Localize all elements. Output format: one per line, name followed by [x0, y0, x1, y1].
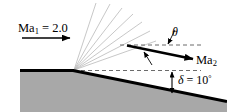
deflection-angle-value: = 10 [184, 73, 209, 87]
fan-line [74, 8, 122, 70]
fan-line [74, 31, 150, 70]
downstream-mach-subscript: 2 [213, 58, 217, 68]
downstream-flow-arrow [127, 46, 193, 60]
expansion-fan-figure: Ma1 = 2.0 Ma2 θ δ = 10° [0, 0, 227, 112]
downstream-mach-text: Ma [196, 53, 213, 67]
expansion-fan [74, 3, 156, 70]
downstream-mach-label: Ma2 [196, 54, 217, 67]
turn-angle-label: θ [172, 26, 178, 38]
upstream-mach-label: Ma1 = 2.0 [18, 22, 68, 35]
turn-angle-leader-line [144, 52, 152, 65]
upstream-mach-text: Ma [18, 21, 35, 35]
deflection-angle-label: δ = 10° [178, 74, 212, 86]
upstream-mach-value: = 2.0 [39, 21, 68, 35]
figure-canvas [0, 0, 227, 112]
degree-sign: ° [208, 74, 211, 83]
